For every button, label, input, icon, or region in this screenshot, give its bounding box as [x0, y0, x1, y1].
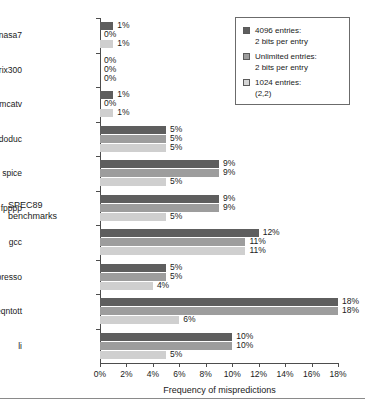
category-label-espresso: espresso: [0, 272, 22, 283]
bar-group: 12%11%11%: [100, 225, 338, 260]
category-label-li: li: [0, 341, 22, 352]
category-label-tomcatv: tomcatv: [0, 99, 22, 110]
x-axis-tick: [338, 363, 339, 367]
x-axis-tick: [126, 363, 127, 367]
bar-group: 9%9%5%: [100, 156, 338, 191]
bar: [100, 178, 166, 186]
bar-value-label: 5%: [170, 270, 182, 283]
x-axis-line: [100, 363, 339, 364]
legend-label-line2: 2 bits per entry: [255, 62, 317, 73]
light-gray-swatch-icon: [243, 79, 250, 86]
bottom-divider: [0, 398, 365, 399]
category-label-eqntott: eqntott: [0, 306, 22, 317]
bar-group: 9%9%5%: [100, 191, 338, 226]
bar-value-label: 1%: [117, 106, 129, 119]
bar: [100, 204, 219, 212]
legend-label-line1: 4096 entries:: [255, 26, 301, 35]
legend-item-label: 4096 entries: 2 bits per entry: [255, 25, 308, 47]
bar-chart: SPEC89 benchmarks nasa7matrix300tomcatvd…: [0, 0, 365, 407]
bar: [100, 247, 245, 255]
bar: [100, 169, 219, 177]
bar: [100, 307, 338, 315]
bar: [100, 144, 166, 152]
bar-value-label: 5%: [170, 141, 182, 154]
bar: [100, 229, 259, 237]
bar: [100, 333, 232, 341]
x-axis-tick: [100, 363, 101, 367]
dark-gray-swatch-icon: [243, 27, 250, 34]
bar: [100, 160, 219, 168]
bar: [100, 238, 245, 246]
x-axis-tick: [153, 363, 154, 367]
bar-group: 18%18%6%: [100, 294, 338, 329]
bar: [100, 126, 166, 134]
bar-value-label: 18%: [342, 304, 359, 317]
bar-value-label: 11%: [249, 244, 265, 257]
bar: [100, 298, 338, 306]
bar: [100, 195, 219, 203]
bar-value-label: 1%: [117, 88, 129, 101]
legend-label-line1: 1024 entries:: [255, 78, 301, 87]
x-axis-tick: [312, 363, 313, 367]
bar-value-label: 5%: [170, 175, 182, 188]
bar-value-label: 10%: [236, 339, 253, 352]
bar: [100, 342, 232, 350]
x-axis-tick: [285, 363, 286, 367]
category-label-nasa7: nasa7: [0, 30, 22, 41]
legend-label-line1: Unlimited entries:: [255, 52, 317, 61]
legend: 4096 entries: 2 bits per entry Unlimited…: [235, 17, 350, 105]
bar: [100, 135, 166, 143]
x-axis-tick: [232, 363, 233, 367]
medium-gray-swatch-icon: [243, 53, 250, 60]
bar-value-label: 0%: [104, 72, 116, 85]
bar-value-label: 9%: [223, 166, 235, 179]
bar-value-label: 4%: [157, 279, 169, 292]
legend-item-label: 1024 entries: (2,2): [255, 77, 301, 99]
legend-item-label: Unlimited entries: 2 bits per entry: [255, 51, 317, 73]
category-label-doduc: doduc: [0, 134, 22, 145]
category-label-fpppp: fpppp: [0, 203, 22, 214]
category-label-gcc: gcc: [0, 237, 22, 248]
legend-label-line2: 2 bits per entry: [255, 36, 308, 47]
bar-value-label: 9%: [223, 201, 235, 214]
bar-value-label: 1%: [117, 19, 129, 32]
bar-group: 5%5%4%: [100, 260, 338, 295]
bar: [100, 109, 113, 117]
x-axis-tick-label: 18%: [323, 369, 353, 380]
bar: [100, 351, 166, 359]
x-axis-tick: [206, 363, 207, 367]
bar: [100, 264, 166, 272]
x-axis-title: Frequency of mispredictions: [100, 385, 339, 395]
bar: [100, 316, 179, 324]
bar-group: 10%10%5%: [100, 329, 338, 364]
category-label-matrix300: matrix300: [0, 65, 22, 76]
bar-value-label: 1%: [117, 37, 129, 50]
bar-value-label: 5%: [170, 348, 182, 361]
bar-value-label: 6%: [183, 313, 195, 326]
bar: [100, 282, 153, 290]
bar-value-label: 5%: [170, 210, 182, 223]
x-axis-tick: [259, 363, 260, 367]
category-label-spice: spice: [0, 168, 22, 179]
bar: [100, 213, 166, 221]
legend-label-line2: (2,2): [255, 88, 301, 99]
x-axis-tick: [179, 363, 180, 367]
bar: [100, 40, 113, 48]
bar-group: 5%5%5%: [100, 122, 338, 157]
